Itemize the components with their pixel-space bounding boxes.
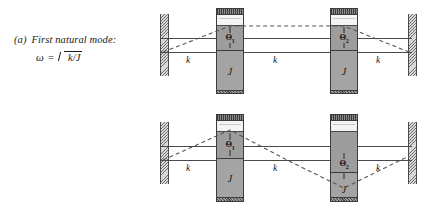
mode-shape-curve-b <box>0 108 436 216</box>
mode-shape-curve-a <box>0 0 436 108</box>
panel-second-natural-mode: (b)Second natural mode: ω=3k/J k k k Θ1 … <box>0 108 436 216</box>
torsional-mode-shapes-figure: (a)First natural mode: ω=k/J k k k Θ1 J <box>0 0 436 216</box>
panel-first-natural-mode: (a)First natural mode: ω=k/J k k k Θ1 J <box>0 0 436 108</box>
